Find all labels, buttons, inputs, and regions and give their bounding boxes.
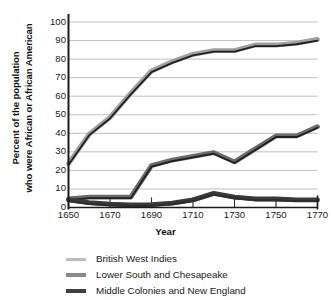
x-axis-tick-label: 1770 [307, 209, 328, 221]
series-lines [69, 39, 318, 206]
y-axis-tick-label: 50 [40, 109, 66, 119]
legend-label: Lower South and Chesapeake [96, 269, 228, 281]
x-axis-tick-label: 1750 [265, 209, 286, 221]
y-axis-title-line-1: Percent of the population [10, 23, 23, 192]
x-axis-tick-label: 1730 [224, 209, 245, 221]
y-axis-title-line-2: who were African or African American [22, 23, 35, 192]
x-axis-tick-label: 1650 [58, 209, 79, 221]
y-axis-tick-label: 40 [40, 128, 66, 138]
chart-legend: British West IndiesLower South and Chesa… [66, 251, 331, 299]
legend-item: Middle Colonies and New England [66, 283, 331, 299]
y-axis-tick-label: 80 [40, 54, 66, 64]
y-axis-tick-label: 10 [40, 183, 66, 193]
y-axis-tick-label: 20 [40, 165, 66, 175]
legend-item: British West Indies [66, 251, 331, 267]
legend-item: Lower South and Chesapeake [66, 267, 331, 283]
y-axis-tick-label: 60 [40, 91, 66, 101]
y-axis-tick-label: 30 [40, 146, 66, 156]
series-halo [69, 39, 318, 163]
y-axis-tick-labels: 0102030405060708090100 [40, 0, 66, 215]
y-axis-tick-label: 100 [40, 17, 66, 27]
legend-label: British West Indies [96, 253, 177, 265]
legend-swatch-icon [66, 289, 86, 293]
x-axis-tick-label: 1710 [182, 209, 203, 221]
x-axis-tick-label: 1690 [141, 209, 162, 221]
y-axis-tick-label: 90 [40, 35, 66, 45]
legend-swatch-icon [66, 273, 86, 277]
x-axis-tick-label: 1670 [99, 209, 120, 221]
y-axis-title: Percent of the population who were Afric… [0, 0, 44, 215]
y-axis-tick-label: 70 [40, 72, 66, 82]
chart-container: Percent of the population who were Afric… [0, 0, 331, 300]
legend-label: Middle Colonies and New England [96, 285, 246, 297]
grid-lines [69, 22, 318, 208]
x-axis-title: Year [0, 226, 331, 237]
legend-swatch-icon [66, 258, 86, 261]
x-axis-tick-labels: 1650167016901710173017501770 [0, 209, 331, 225]
